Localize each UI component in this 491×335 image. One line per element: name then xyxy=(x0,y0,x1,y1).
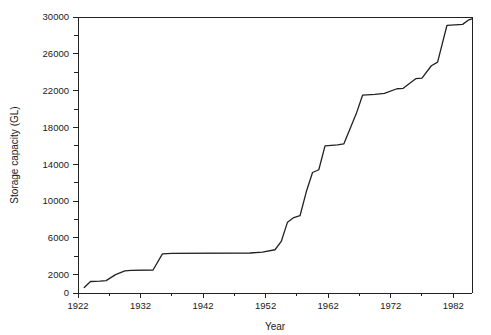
x-tick-label: 1972 xyxy=(380,300,401,311)
x-tick-label: 1982 xyxy=(443,300,464,311)
y-tick-label: 10000 xyxy=(43,195,69,206)
y-tick-label: 26000 xyxy=(43,48,69,59)
y-tick-label: 0 xyxy=(64,287,69,298)
x-axis-title: Year xyxy=(265,321,286,332)
x-tick-label: 1952 xyxy=(255,300,276,311)
y-axis-title: Storage capacity (GL) xyxy=(9,106,20,203)
x-tick-label: 1962 xyxy=(318,300,339,311)
y-tick-label: 14000 xyxy=(43,159,69,170)
y-tick-label: 30000 xyxy=(43,11,69,22)
y-tick-label: 18000 xyxy=(43,122,69,133)
x-tick-label: 1942 xyxy=(193,300,214,311)
x-tick-label: 1922 xyxy=(67,300,88,311)
y-tick-label: 6000 xyxy=(48,232,69,243)
chart-figure: 020006000100001400018000220002600030000 … xyxy=(0,0,491,335)
y-tick-label: 22000 xyxy=(43,85,69,96)
y-tick-label: 2000 xyxy=(48,269,69,280)
line-chart: 020006000100001400018000220002600030000 … xyxy=(0,0,491,335)
x-tick-label: 1932 xyxy=(130,300,151,311)
chart-background xyxy=(0,0,491,335)
